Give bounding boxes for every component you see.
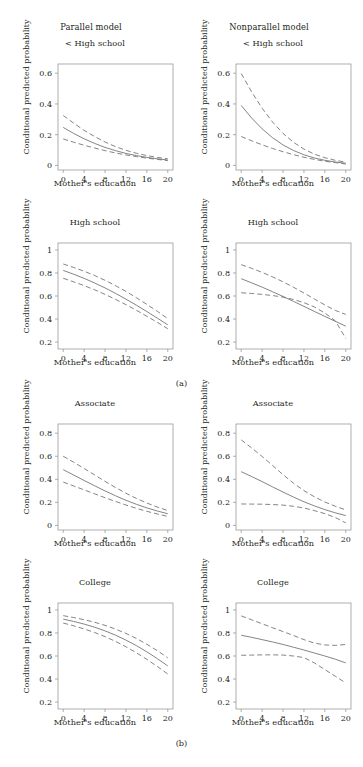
series-line (241, 279, 346, 326)
y-tick-label: 0.4 (39, 475, 52, 484)
x-axis-label: Mother's education (188, 178, 358, 188)
panel-parallel-high-school: High school Conditional predicted probab… (10, 217, 180, 392)
y-tick-label: 0.4 (39, 315, 52, 324)
x-axis-label: Mother's education (10, 178, 180, 188)
y-tick-label: 0.2 (217, 698, 230, 707)
series-line (63, 470, 168, 514)
panel-nonparallel-associate: Associate Conditional predicted probabil… (188, 398, 358, 573)
series-line (241, 265, 346, 315)
y-tick-label: 0.8 (39, 629, 52, 638)
y-tick-label: 0.2 (39, 698, 52, 707)
series-line (241, 105, 346, 163)
y-tick-label: 0.2 (217, 338, 230, 347)
y-tick-label: 0.4 (39, 100, 52, 109)
plot-area: 00.20.40.6048121620 (188, 38, 358, 188)
y-tick-label: 0.2 (39, 131, 52, 140)
y-tick-label: 0.4 (217, 100, 230, 109)
y-tick-label: 0 (47, 521, 52, 530)
plot-area: 0.20.40.60.81048121620 (188, 217, 358, 367)
series-line (63, 619, 168, 666)
y-tick-label: 1 (225, 246, 230, 255)
panel-nonparallel-college: College Conditional predicted probabilit… (188, 577, 358, 752)
y-tick-label: 0.8 (217, 429, 230, 438)
y-tick-label: 0.8 (217, 629, 230, 638)
y-tick-label: 0 (47, 161, 52, 170)
series-line (63, 623, 168, 674)
y-tick-label: 0 (225, 521, 230, 530)
series-line (241, 293, 346, 339)
figure-conditional-predicted-probability: Parallel model Nonparallel model < High … (0, 0, 363, 767)
y-tick-label: 0.6 (39, 652, 52, 661)
y-tick-label: 0.2 (39, 498, 52, 507)
y-tick-label: 0.6 (39, 452, 52, 461)
plot-area: 00.20.40.60.8048121620 (188, 398, 358, 548)
y-tick-label: 0.2 (39, 338, 52, 347)
plot-area: 0.20.40.60.81048121620 (188, 577, 358, 727)
series-line (241, 655, 346, 683)
panel-parallel-associate: Associate Conditional predicted probabil… (10, 398, 180, 573)
y-tick-label: 0.6 (217, 452, 230, 461)
y-tick-label: 0.8 (39, 429, 52, 438)
series-line (63, 270, 168, 324)
panel-nonparallel-lt-high-school: < High school Conditional predicted prob… (188, 38, 358, 213)
x-axis-label: Mother's education (10, 357, 180, 367)
x-axis-label: Mother's education (188, 717, 358, 727)
series-line (63, 456, 168, 510)
y-tick-label: 0 (225, 161, 230, 170)
series-line (241, 616, 346, 646)
y-tick-label: 0.6 (217, 69, 230, 78)
y-tick-label: 0.4 (39, 675, 52, 684)
sublabel-b: (b) (0, 738, 363, 748)
series-line (241, 440, 346, 510)
y-tick-label: 0.2 (217, 498, 230, 507)
x-axis-label: Mother's education (10, 538, 180, 548)
y-tick-label: 0.6 (39, 292, 52, 301)
column-title-parallel: Parallel model (16, 22, 166, 32)
y-tick-label: 0.2 (217, 131, 230, 140)
series-line (63, 264, 168, 319)
y-tick-label: 0.6 (217, 652, 230, 661)
y-tick-label: 0.4 (217, 675, 230, 684)
series-line (63, 616, 168, 658)
y-tick-label: 0.6 (39, 69, 52, 78)
x-axis-label: Mother's education (10, 717, 180, 727)
panel-nonparallel-high-school: High school Conditional predicted probab… (188, 217, 358, 392)
column-title-nonparallel: Nonparallel model (194, 22, 344, 32)
plot-area: 00.20.40.6048121620 (10, 38, 180, 188)
plot-area: 0.20.40.60.81048121620 (10, 577, 180, 727)
series-line (63, 139, 168, 161)
series-line (241, 472, 346, 516)
series-line (63, 115, 168, 158)
plot-area: 00.20.40.60.8048121620 (10, 398, 180, 548)
y-tick-label: 0.8 (39, 269, 52, 278)
panel-parallel-college: College Conditional predicted probabilit… (10, 577, 180, 752)
y-tick-label: 1 (225, 606, 230, 615)
y-tick-label: 0.6 (217, 292, 230, 301)
x-axis-label: Mother's education (188, 538, 358, 548)
y-tick-label: 0.4 (217, 315, 230, 324)
panel-parallel-lt-high-school: < High school Conditional predicted prob… (10, 38, 180, 213)
y-tick-label: 1 (47, 246, 52, 255)
series-line (241, 74, 346, 163)
y-tick-label: 0.8 (217, 269, 230, 278)
sublabel-a: (a) (0, 378, 363, 388)
series-line (241, 504, 346, 523)
y-tick-label: 1 (47, 606, 52, 615)
series-line (241, 635, 346, 663)
x-axis-label: Mother's education (188, 357, 358, 367)
plot-area: 0.20.40.60.81048121620 (10, 217, 180, 367)
y-tick-label: 0.4 (217, 475, 230, 484)
